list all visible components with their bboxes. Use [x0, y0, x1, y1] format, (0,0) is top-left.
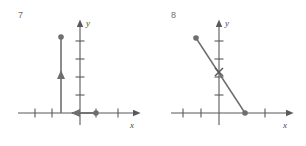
y-axis: y [215, 18, 230, 125]
figure-7-graph: x y [0, 0, 153, 146]
y-axis-label: y [85, 18, 90, 28]
endpoint-dot-upper [193, 35, 199, 41]
figure-sheet: 7 x [0, 0, 306, 146]
figure-8: 8 x [153, 0, 306, 146]
x-axis: x [171, 109, 287, 131]
figure-7: 7 x [0, 0, 153, 146]
y-axis-label: y [224, 18, 229, 28]
x-axis-label: x [282, 120, 287, 130]
horizontal-ray [71, 109, 99, 117]
vertical-ray [57, 34, 65, 113]
endpoint-dot [58, 34, 64, 40]
x-axis-label: x [129, 120, 134, 130]
endpoint-dot [93, 110, 99, 116]
decreasing-segment [193, 35, 248, 116]
endpoint-dot-lower [242, 110, 248, 116]
ray-direction-arrow-left [71, 109, 80, 117]
ray-direction-arrow-up [57, 70, 65, 79]
figure-8-graph: x y [153, 0, 306, 146]
y-axis: y [76, 18, 91, 125]
